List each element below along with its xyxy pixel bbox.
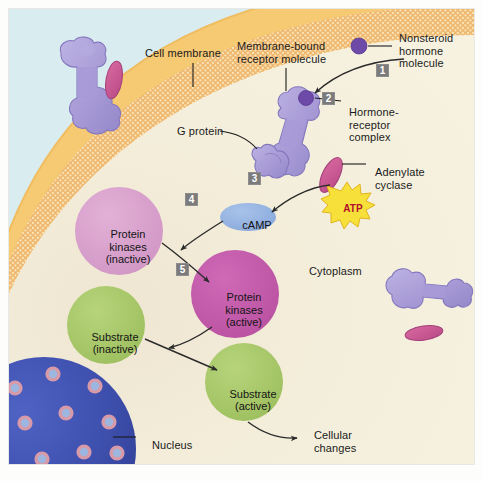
atp-label: ATP [335,199,371,217]
step-number-5: 5 [176,263,189,276]
protein-kinases-active-label: Protein kinases (active) [200,266,288,354]
protein-kinases-inactive-label: Protein kinases (inactive) [84,203,172,291]
label-cell-membrane: Cell membrane [145,47,221,60]
label-hormone-receptor-complex: Hormone- receptor complex [349,106,399,144]
label-nucleus: Nucleus [152,439,192,452]
substrate-active-label: Substrate (active) [214,361,292,439]
step-number-3: 3 [248,172,261,185]
label-nonsteroid-hormone-molecule: Nonsteroid hormone molecule [399,32,453,70]
hormone-molecule-dot [351,38,367,54]
diagram-canvas: Cell membrane Membrane-bound receptor mo… [0,0,483,481]
step-number-4: 4 [185,193,198,206]
bound-hormone-molecule [299,91,314,106]
step-number-2: 2 [322,92,335,105]
step-number-1: 1 [376,64,389,77]
label-adenylate-cyclase: Adenylate cyclase [375,166,425,191]
camp-label: cAMP [229,212,285,238]
label-g-protein: G protein [177,125,223,138]
diagram-frame: Cell membrane Membrane-bound receptor mo… [9,9,474,464]
label-membrane-bound-receptor: Membrane-bound receptor molecule [237,40,326,65]
substrate-inactive-label: Substrate (inactive) [76,304,154,382]
label-cellular-changes: Cellular changes [314,429,356,454]
label-cytoplasm: Cytoplasm [309,265,362,278]
